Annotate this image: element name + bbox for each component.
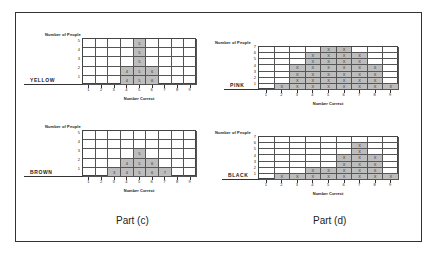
x-tick-label: 3: [109, 179, 119, 184]
x-tick-label: 2: [96, 179, 106, 184]
tally-cell: [121, 48, 134, 57]
y-tick-label: 1: [72, 166, 80, 171]
tally-cell: [96, 159, 109, 168]
tally-mark: X: [352, 143, 367, 148]
y-tick-label: 3: [72, 56, 80, 61]
x-tick-label: 1: [83, 179, 93, 184]
x-tick-label: 8: [172, 179, 182, 184]
tally-cell: [172, 140, 185, 149]
tally-cell: [184, 140, 197, 149]
tally-mark: X: [337, 47, 352, 52]
tally-cell: [184, 131, 197, 140]
tally-cell-filled: 4: [121, 76, 134, 85]
tally-cell: [159, 131, 172, 140]
y-tick-label: 5: [248, 56, 256, 61]
tally-cell: [184, 168, 197, 177]
tally-mark: X: [337, 65, 352, 70]
tally-cell: [259, 174, 275, 180]
x-tick-label: 7: [159, 87, 169, 92]
tally-mark: X: [337, 72, 352, 77]
tally-cell: [184, 48, 197, 57]
tally-mark: X: [352, 65, 367, 70]
tally-mark: X: [352, 78, 367, 83]
tally-cell: [172, 131, 185, 140]
tally-cell-filled: X: [290, 84, 306, 90]
series-name-pink: PINK: [230, 82, 244, 88]
x-axis-title: Number Correct: [109, 188, 169, 193]
x-tick-label: 9: [185, 179, 195, 184]
tally-mark: X: [368, 65, 383, 70]
y-tick-label: 5: [72, 130, 80, 135]
tally-cell: [172, 149, 185, 158]
y-axis-title: Number of People: [215, 40, 251, 45]
part-d-label: Part (d): [313, 215, 346, 226]
tally-mark: X: [383, 174, 398, 179]
tally-cell: [184, 149, 197, 158]
tally-cell: [146, 57, 159, 66]
y-tick-label: 5: [72, 38, 80, 43]
tally-mark: X: [306, 84, 321, 89]
tally-mark: X: [306, 174, 321, 179]
tally-cell: [83, 131, 96, 140]
x-tick-label: 6: [147, 179, 157, 184]
tally-mark: X: [275, 174, 290, 179]
tally-cell: [83, 67, 96, 76]
tally-cell: [108, 39, 121, 48]
tally-cell: [83, 140, 96, 149]
tally-mark: 4: [121, 168, 133, 176]
y-tick-label: 4: [248, 153, 256, 158]
tally-cell: [172, 76, 185, 85]
y-tick-label: 3: [248, 159, 256, 164]
tally-cell: [159, 57, 172, 66]
tally-mark: X: [321, 168, 336, 173]
tally-cell-filled: 5: [134, 48, 147, 57]
tally-mark: X: [352, 149, 367, 154]
x-tick-label: 9: [185, 87, 195, 92]
tally-cell: [83, 39, 96, 48]
tally-mark: X: [321, 84, 336, 89]
tally-mark: X: [337, 168, 352, 173]
tally-cell: [134, 140, 147, 149]
tally-mark: 7: [159, 168, 171, 176]
tally-cell: [108, 131, 121, 140]
y-tick-label: 3: [72, 148, 80, 153]
tally-mark: 5: [134, 149, 146, 157]
tally-cell: [96, 57, 109, 66]
tally-cell: [184, 57, 197, 66]
tally-cell: [108, 57, 121, 66]
tally-cell: [159, 48, 172, 57]
tally-cell-filled: X: [290, 174, 306, 180]
tally-cell-filled: 5: [134, 57, 147, 66]
tally-mark: X: [337, 84, 352, 89]
y-tick-label: 6: [248, 50, 256, 55]
tally-cell: [159, 39, 172, 48]
tally-cell: [259, 84, 275, 90]
tally-cell: [96, 39, 109, 48]
tally-mark: X: [368, 84, 383, 89]
y-tick-label: 1: [248, 81, 256, 86]
tally-cell: [83, 57, 96, 66]
series-name-black: BLACK: [228, 172, 249, 178]
tally-cell: [184, 67, 197, 76]
tally-cell: [83, 76, 96, 85]
tally-mark: 6: [146, 159, 158, 167]
tally-grid: 344555667: [82, 130, 196, 176]
tally-cell: [159, 159, 172, 168]
y-tick-label: 4: [72, 47, 80, 52]
tally-mark: 5: [134, 168, 146, 176]
tally-mark: X: [290, 84, 305, 89]
tally-cell: [83, 149, 96, 158]
x-tick-label: 1: [261, 182, 271, 187]
y-tick-label: 1: [248, 171, 256, 176]
x-tick-label: 9: [385, 182, 395, 187]
x-axis-title: Number Correct: [298, 191, 358, 196]
tally-mark: X: [337, 78, 352, 83]
tally-cell: [121, 39, 134, 48]
x-tick-label: 5: [134, 179, 144, 184]
tally-cell: [172, 168, 185, 177]
tally-mark: X: [352, 168, 367, 173]
x-tick-label: 1: [83, 87, 93, 92]
x-tick-label: 2: [276, 92, 286, 97]
tally-mark: X: [352, 53, 367, 58]
tally-mark: 5: [134, 48, 146, 56]
